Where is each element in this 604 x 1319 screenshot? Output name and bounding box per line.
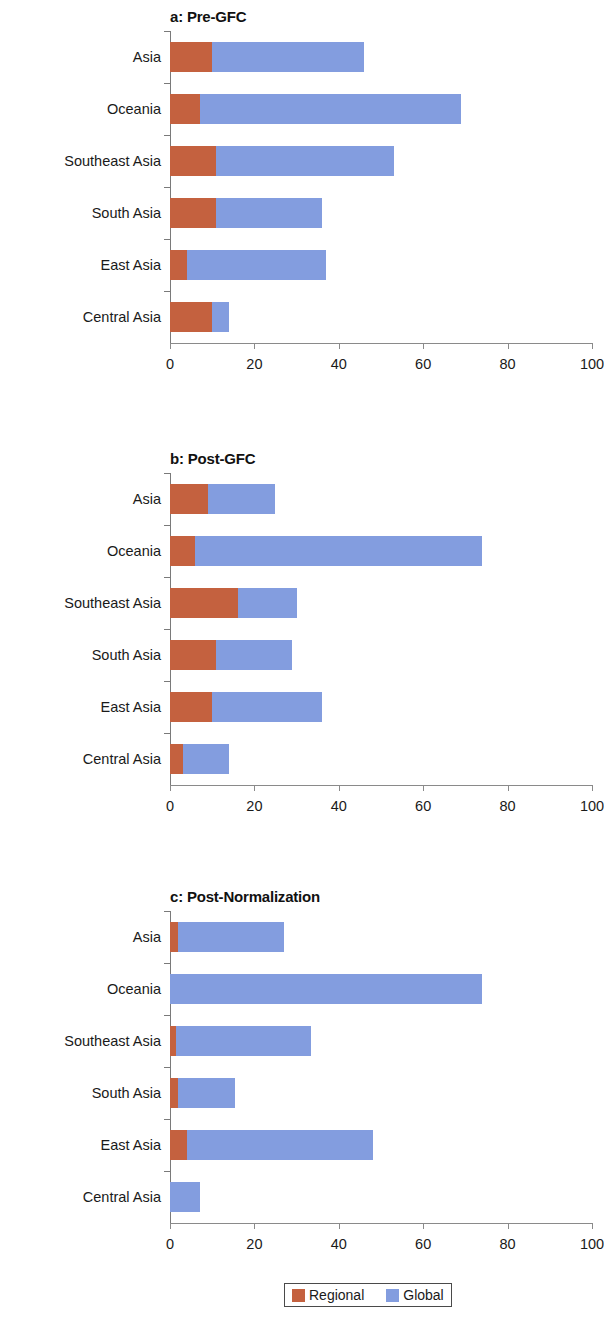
panel-b-bar-asia-regional	[170, 484, 208, 514]
panel-b-label-central-asia: Central Asia	[1, 751, 161, 767]
panel-b-bar-east-asia	[170, 692, 322, 722]
panel-a-bar-asia	[170, 42, 364, 72]
panel-a-bar-asia-regional	[170, 42, 212, 72]
panel-c-label-central-asia: Central Asia	[1, 1189, 161, 1205]
panel-b-row-central-asia: Central Asia	[170, 733, 591, 785]
panel-b-x-tick	[254, 785, 255, 791]
panel-a-x-tick	[254, 343, 255, 349]
legend-item-global: Global	[386, 1287, 443, 1303]
panel-a-bar-south-asia-regional	[170, 198, 216, 228]
panel-c-label-east-asia: East Asia	[1, 1137, 161, 1153]
y-tick	[164, 911, 170, 912]
panel-c-label-asia: Asia	[1, 929, 161, 945]
panel-a-bar-east-asia-regional	[170, 250, 187, 280]
legend-label-regional: Regional	[309, 1287, 364, 1303]
panel-b-bar-oceania-regional	[170, 536, 195, 566]
panel-a-row-south-asia: South Asia	[170, 187, 591, 239]
panel-b-x-axis: 020406080100	[170, 785, 591, 825]
panel-c-row-oceania: Oceania	[170, 963, 591, 1015]
panel-c-bar-southeast-asia	[170, 1026, 311, 1056]
y-tick	[164, 963, 170, 964]
panel-c-row-southeast-asia: Southeast Asia	[170, 1015, 591, 1067]
panel-a-x-tick	[423, 343, 424, 349]
y-tick	[164, 681, 170, 682]
panel-b-label-asia: Asia	[1, 491, 161, 507]
y-tick	[164, 31, 170, 32]
y-tick	[164, 1015, 170, 1016]
panel-b-x-tick-label: 0	[166, 798, 174, 814]
panel-c-bar-south-asia-regional	[170, 1078, 178, 1108]
panel-c-row-central-asia: Central Asia	[170, 1171, 591, 1223]
panel-c-bar-south-asia	[170, 1078, 235, 1108]
panel-a-row-central-asia: Central Asia	[170, 291, 591, 343]
panel-a-bar-central-asia	[170, 302, 229, 332]
panel-c-bar-asia	[170, 922, 284, 952]
panel-b-bar-south-asia-global	[216, 640, 292, 670]
y-tick	[164, 1119, 170, 1120]
panel-c-row-east-asia: East Asia	[170, 1119, 591, 1171]
panel-c-x-tick	[254, 1223, 255, 1229]
panel-b-x-tick	[170, 785, 171, 791]
y-tick	[164, 1067, 170, 1068]
panel-a-x-axis: 020406080100	[170, 343, 591, 383]
panel-b-label-oceania: Oceania	[1, 543, 161, 559]
y-tick	[164, 187, 170, 188]
panel-b-bar-central-asia-global	[183, 744, 229, 774]
y-tick	[164, 473, 170, 474]
panel-b-row-asia: Asia	[170, 473, 591, 525]
legend-item-regional: Regional	[292, 1287, 364, 1303]
panel-b-bar-south-asia	[170, 640, 292, 670]
panel-c-x-tick-label: 0	[166, 1236, 174, 1252]
panel-c-x-tick	[592, 1223, 593, 1229]
panel-c-x-tick-label: 80	[500, 1236, 516, 1252]
panel-c-x-tick-label: 60	[415, 1236, 431, 1252]
panel-c-label-southeast-asia: Southeast Asia	[1, 1033, 161, 1049]
panel-c-rows: Asia Oceania Southeast Asi	[0, 911, 591, 1223]
panel-a-bar-south-asia	[170, 198, 322, 228]
panel-c-bar-east-asia-regional	[170, 1130, 187, 1160]
y-tick	[164, 629, 170, 630]
panel-c-x-axis-line	[170, 1223, 592, 1224]
y-tick	[164, 1171, 170, 1172]
panel-a-x-tick-label: 20	[246, 356, 262, 372]
panel-a-bar-southeast-asia-global	[216, 146, 393, 176]
panel-b-x-tick-label: 20	[246, 798, 262, 814]
panel-a-bar-east-asia	[170, 250, 326, 280]
panel-a-x-tick	[508, 343, 509, 349]
panel-b-x-tick-label: 80	[500, 798, 516, 814]
panel-b-x-tick-label: 40	[331, 798, 347, 814]
panel-c-x-tick-label: 40	[331, 1236, 347, 1252]
panel-a-pre-gfc: a: Pre-GFC Asia Oceania	[0, 8, 591, 383]
panel-b-label-southeast-asia: Southeast Asia	[1, 595, 161, 611]
panel-a-label-southeast-asia: Southeast Asia	[1, 153, 161, 169]
panel-b-rows: Asia Oceania Southeast Asi	[0, 473, 591, 785]
panel-a-row-oceania: Oceania	[170, 83, 591, 135]
panel-c-row-asia: Asia	[170, 911, 591, 963]
panel-a-row-southeast-asia: Southeast Asia	[170, 135, 591, 187]
y-tick	[164, 577, 170, 578]
panel-a-bar-oceania-global	[200, 94, 462, 124]
panel-c-post-normalization: c: Post-Normalization Asia Oceania	[0, 888, 591, 1263]
panel-b-row-south-asia: South Asia	[170, 629, 591, 681]
panel-b-bar-central-asia-regional	[170, 744, 183, 774]
panel-b-plot: Asia Oceania Southeast Asi	[0, 473, 591, 825]
legend-label-global: Global	[403, 1287, 443, 1303]
panel-c-x-tick	[423, 1223, 424, 1229]
panel-c-bar-east-asia-global	[187, 1130, 373, 1160]
legend-swatch-regional-icon	[292, 1289, 305, 1302]
panel-a-x-tick	[339, 343, 340, 349]
panel-b-label-east-asia: East Asia	[1, 699, 161, 715]
panel-b-x-tick	[339, 785, 340, 791]
panel-a-plot: Asia Oceania Southeast Asi	[0, 31, 591, 383]
panel-c-bar-oceania-global	[170, 974, 482, 1004]
panel-a-title: a: Pre-GFC	[0, 8, 591, 25]
panel-b-bar-southeast-asia-regional	[170, 588, 238, 618]
panel-a-x-tick	[170, 343, 171, 349]
y-tick	[164, 83, 170, 84]
panel-b-x-tick-label: 100	[580, 798, 604, 814]
panel-a-label-east-asia: East Asia	[1, 257, 161, 273]
panel-a-bar-south-asia-global	[216, 198, 322, 228]
panel-a-bar-central-asia-regional	[170, 302, 212, 332]
panel-c-x-tick-label: 100	[580, 1236, 604, 1252]
